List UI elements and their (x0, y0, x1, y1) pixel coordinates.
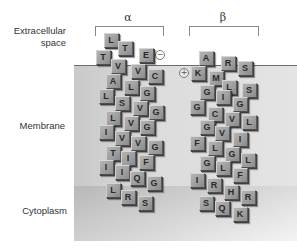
alpha-residue-tile: G (147, 176, 162, 191)
alpha-residue-tile: V (115, 131, 130, 146)
beta-residue-tile: A (199, 51, 214, 66)
beta-residue-tile: G (225, 147, 240, 162)
beta-residue-tile: L (242, 115, 257, 130)
alpha-residue-tile: S (138, 196, 153, 211)
beta-residue-tile: H (224, 185, 239, 200)
extracellular-label-line1: Extracellular (2, 25, 66, 37)
membrane-label: Membrane (2, 120, 65, 132)
beta-residue-tile: F (190, 136, 205, 151)
beta-residue-tile: V (215, 126, 230, 141)
beta-residue-tile: S (242, 83, 257, 98)
extracellular-label-line2: space (2, 37, 66, 49)
alpha-residue-tile: I (121, 151, 136, 166)
extracellular-space-label: Extracellular space (2, 25, 66, 49)
beta-residue-tile: G (190, 100, 205, 115)
beta-residue-tile: R (207, 178, 222, 193)
alpha-residue-tile: I (99, 125, 114, 140)
beta-residue-tile: G (200, 85, 215, 100)
alpha-residue-tile: V (124, 116, 139, 131)
beta-residue-tile: Q (215, 201, 230, 216)
alpha-residue-tile: L (106, 111, 121, 126)
alpha-residue-tile: L (106, 183, 121, 198)
beta-residue-tile: L (208, 141, 223, 156)
beta-bracket (189, 26, 259, 36)
alpha-residue-tile: V (131, 136, 146, 151)
alpha-residue-tile: I (115, 165, 130, 180)
beta-residue-tile: G (200, 156, 215, 171)
beta-residue-tile: S (199, 196, 214, 211)
alpha-residue-tile: G (148, 140, 163, 155)
alpha-residue-tile: T (106, 146, 121, 161)
beta-residue-tile: R (241, 190, 256, 205)
alpha-residue-tile: R (121, 190, 136, 205)
alpha-residue-tile: I (99, 160, 114, 175)
alpha-residue-tile: F (139, 155, 154, 170)
alpha-residue-tile: T (96, 50, 111, 65)
alpha-residue-tile: L (124, 80, 139, 95)
alpha-residue-tile: V (111, 59, 126, 74)
alpha-residue-tile: A (106, 74, 121, 89)
alpha-residue-tile: V (131, 64, 146, 79)
beta-residue-tile: L (216, 161, 231, 176)
beta-residue-tile: I (190, 173, 205, 188)
beta-residue-tile: K (191, 66, 206, 81)
alpha-residue-tile: Q (130, 171, 145, 186)
alpha-residue-tile: L (104, 33, 119, 48)
beta-residue-tile: F (233, 168, 248, 183)
beta-residue-tile: L (241, 153, 256, 168)
positive-charge-icon: + (179, 68, 189, 78)
beta-residue-tile: I (233, 132, 248, 147)
alpha-residue-tile: S (115, 96, 130, 111)
beta-label: β (213, 11, 233, 24)
alpha-residue-tile: G (140, 86, 155, 101)
beta-residue-tile: V (225, 112, 240, 127)
alpha-residue-tile: E (139, 48, 154, 63)
alpha-label: α (118, 11, 138, 24)
alpha-residue-tile: L (99, 89, 114, 104)
beta-residue-tile: S (238, 61, 253, 76)
alpha-residue-tile: V (133, 101, 148, 116)
beta-residue-tile: G (200, 120, 215, 135)
cytoplasm-label: Cytoplasm (2, 205, 67, 217)
beta-residue-tile: I (216, 90, 231, 105)
alpha-residue-tile: T (118, 41, 133, 56)
beta-residue-tile: K (233, 207, 248, 222)
beta-residue-tile: G (233, 97, 248, 112)
alpha-residue-tile: G (140, 120, 155, 135)
beta-residue-tile: R (221, 56, 236, 71)
negative-charge-icon: − (155, 50, 165, 60)
alpha-residue-tile: C (148, 69, 163, 84)
alpha-residue-tile: G (149, 105, 164, 120)
